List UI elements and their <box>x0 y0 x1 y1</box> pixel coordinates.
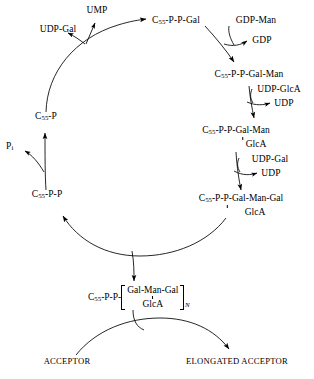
arrow-ump-out <box>86 23 95 44</box>
arrow-glca-to-gal2 <box>236 152 241 190</box>
node-carrier-p: C55-P <box>35 112 57 122</box>
carrier-pp-suffix: -P-P <box>45 189 62 199</box>
label-gdp: GDP <box>252 36 271 46</box>
node-gal-man-gal-glca: C55-P-P-Gal-Man-Gal GlcA <box>199 194 283 218</box>
node-gal: C55-P-P-Gal <box>152 16 200 26</box>
gal-man-glca-suffix: -P-P-Gal-Man <box>215 125 269 135</box>
arrow-udp-out-1 <box>247 102 270 105</box>
polymer-repeat-line2: GlcA <box>127 300 178 310</box>
polymer-repeat-line1: Gal-Man-Gal <box>127 286 178 296</box>
node-carrier-pp: C55-P-P <box>32 190 63 200</box>
arrow-pi-out <box>25 151 44 172</box>
polymer-repeat-subscript: N <box>184 301 189 310</box>
gal-man-gal-chain: C55-P-P-Gal-Man-Gal <box>199 194 283 204</box>
label-acceptor: ACCEPTOR <box>44 357 91 366</box>
pathway-diagram: UDP-Gal UMP Pi C55-P C55-P-P C55-P-P-Gal… <box>0 0 314 379</box>
arrow-gal2-to-carrier-pp <box>63 216 226 256</box>
label-udp-glca: UDP-GlcA <box>257 85 301 95</box>
polymer-prefix-suffix: -P-P- <box>101 292 121 302</box>
polymer-repeat-unit: Gal-Man-Gal GlcA <box>125 285 180 310</box>
label-gdp-man: GDP-Man <box>236 16 276 26</box>
label-udp-gal-top: UDP-Gal <box>40 25 77 35</box>
gal-man-suffix: -P-P-Gal-Man <box>228 69 284 79</box>
gal-man-glca-branch: GlcA <box>242 140 270 150</box>
arrow-gdp-out <box>224 41 247 45</box>
gal-man-gal-branch: GlcA <box>227 208 283 218</box>
carrier-p-suffix: -P <box>48 111 57 121</box>
node-gal-man: C55-P-P-Gal-Man <box>215 70 284 80</box>
arrow-gal-to-gal-man <box>205 26 234 62</box>
label-pi: Pi <box>6 142 13 152</box>
arrow-acceptor-to-elongated <box>76 318 229 355</box>
bracket-right <box>180 285 184 310</box>
bracket-left <box>121 285 125 310</box>
label-elongated-acceptor: ELONGATED ACCEPTOR <box>186 357 288 366</box>
gal-man-gal-suffix: -P-P-Gal-Man-Gal <box>212 193 283 203</box>
label-udp-gal-2: UDP-Gal <box>252 155 289 165</box>
arrow-udp-out-2 <box>234 171 257 175</box>
gal-suffix: -P-P-Gal <box>165 15 200 25</box>
gal-man-glca-chain: C55-P-P-Gal-Man <box>202 126 270 136</box>
pi-subscript: i <box>11 144 13 151</box>
label-udp-2: UDP <box>261 169 280 179</box>
node-gal-man-glca: C55-P-P-Gal-Man GlcA <box>202 126 270 150</box>
label-ump: UMP <box>87 6 108 16</box>
arrow-gdp-man-in <box>229 26 234 45</box>
arrow-carrier-pp-to-p <box>45 133 46 190</box>
node-polymer: C55-P-P- Gal-Man-Gal GlcA N <box>88 285 190 310</box>
polymer-prefix-group: C55-P-P- <box>88 292 121 302</box>
label-udp-1: UDP <box>274 99 293 109</box>
